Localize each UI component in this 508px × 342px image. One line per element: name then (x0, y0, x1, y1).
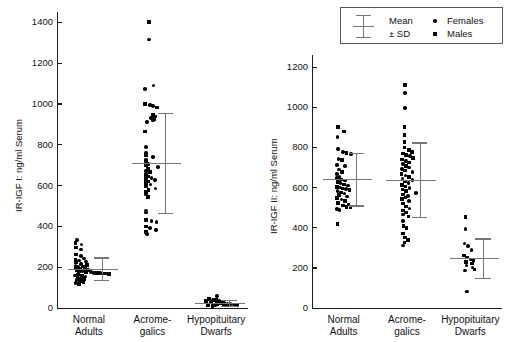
data-point-female (464, 227, 468, 231)
data-point-male (403, 125, 407, 129)
data-point-female (145, 232, 149, 236)
data-point-male (345, 151, 349, 155)
data-point-male (147, 20, 151, 24)
mean-bar (68, 269, 118, 270)
data-point-female (414, 191, 418, 195)
sd-whisker-stem (420, 143, 421, 217)
y-axis-tick (58, 185, 62, 186)
data-point-female (151, 155, 155, 159)
x-axis-line (312, 308, 502, 309)
data-point-male (336, 125, 340, 129)
data-point-female (154, 187, 158, 191)
figure-igf-scatter-plots: 0200400600800100012001400IR-IGF I: ng/ml… (0, 0, 508, 342)
data-point-female (156, 165, 160, 169)
data-point-female (152, 84, 156, 88)
sd-whisker-stem (102, 258, 103, 280)
category-label-line2: galics (121, 326, 185, 338)
data-point-male (400, 172, 404, 176)
y-axis-tick-label: 0 (278, 303, 308, 313)
y-axis-tick (313, 227, 317, 228)
sd-cap-upper (221, 300, 236, 301)
data-point-male (405, 226, 409, 230)
data-point-male (403, 169, 407, 173)
category-label-line2: galics (375, 326, 438, 338)
y-axis-tick-label: 1000 (278, 102, 308, 112)
sd-cap-lower (221, 306, 236, 307)
legend-females-label: Females (447, 15, 483, 26)
x-axis-category-label: Acrome-galics (375, 314, 438, 337)
data-point-female (336, 147, 340, 151)
chart-panel-igf1: 0200400600800100012001400IR-IGF I: ng/ml… (0, 0, 254, 342)
data-point-male (403, 146, 407, 150)
data-point-female (144, 145, 148, 149)
data-point-male (403, 140, 407, 144)
data-point-male (410, 150, 414, 154)
mean-bar (195, 303, 245, 304)
data-point-female (403, 91, 407, 95)
data-point-female (80, 243, 84, 247)
y-axis-tick (313, 107, 317, 108)
sd-cap-lower (94, 280, 109, 281)
legend-males-label: Males (447, 28, 472, 39)
data-point-female (335, 163, 339, 167)
legend-sd-cap-top (356, 15, 371, 16)
y-axis-tick-label: 800 (23, 140, 53, 150)
sd-cap-upper (475, 238, 490, 239)
data-point-female (215, 294, 219, 298)
y-axis-tick-label: 1000 (23, 99, 53, 109)
y-axis-tick (313, 267, 317, 268)
data-point-male (411, 156, 415, 160)
data-point-male (464, 215, 468, 219)
sd-cap-upper (94, 257, 109, 258)
y-axis-tick-label: 1200 (23, 58, 53, 68)
y-axis-tick (313, 67, 317, 68)
data-point-female (407, 199, 411, 203)
data-point-female (145, 120, 149, 124)
category-label-line1: Hypopituitary (184, 314, 248, 326)
data-point-male (473, 268, 477, 272)
data-point-female (466, 244, 470, 248)
data-point-male (155, 106, 159, 110)
y-axis-tick-label: 1200 (278, 62, 308, 72)
data-point-female (343, 164, 347, 168)
data-point-male (407, 161, 411, 165)
chart-panel-igf2: 020040060080010001200IR-IGF II: ng/ml Se… (254, 0, 508, 342)
y-axis-tick (58, 308, 62, 309)
data-point-female (155, 220, 159, 224)
data-point-male (470, 262, 474, 266)
category-label-line2: Dwarfs (439, 326, 502, 338)
mean-bar (386, 180, 435, 181)
y-axis-tick (58, 103, 62, 104)
sd-whisker-stem (165, 114, 166, 214)
legend-sd-label: ± SD (389, 28, 410, 39)
data-point-male (143, 130, 147, 134)
x-axis-category-label: NormalAdults (57, 314, 121, 337)
sd-cap-upper (349, 153, 364, 154)
y-axis-tick (58, 63, 62, 64)
data-point-female (336, 135, 340, 139)
y-axis-tick (313, 147, 317, 148)
data-point-female (401, 213, 405, 217)
category-label-line1: Normal (57, 314, 121, 326)
data-point-female (150, 219, 154, 223)
x-axis-category-label: Acrome-galics (121, 314, 185, 337)
legend-female-marker-icon (433, 19, 437, 23)
data-point-male (146, 195, 150, 199)
sd-whisker-stem (483, 239, 484, 278)
data-point-male (336, 222, 340, 226)
legend-male-marker-icon (433, 32, 437, 36)
data-point-male (407, 215, 411, 219)
data-point-male (82, 280, 86, 284)
data-point-male (148, 170, 152, 174)
data-point-female (465, 264, 469, 268)
legend-mean-label: Mean (389, 15, 413, 26)
data-point-female (403, 106, 407, 110)
data-point-female (411, 170, 415, 174)
data-point-male (404, 153, 408, 157)
data-point-female (154, 228, 158, 232)
data-point-female (407, 166, 411, 170)
data-point-female (149, 183, 153, 187)
data-point-male (107, 272, 111, 276)
data-point-male (406, 238, 410, 242)
data-point-male (211, 304, 215, 308)
